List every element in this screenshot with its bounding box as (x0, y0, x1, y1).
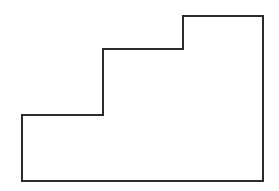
diagram-canvas (0, 0, 279, 191)
staircase-shape (22, 16, 263, 181)
